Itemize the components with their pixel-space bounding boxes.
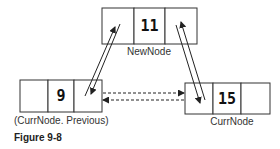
node-new-label: NewNode	[127, 46, 171, 57]
node-new-value: 11	[140, 17, 158, 35]
node-prev-value: 9	[56, 87, 65, 105]
node-prev-label: (CurrNode. Previous)	[14, 115, 108, 126]
node-prev-prev-cell	[20, 80, 48, 112]
node-curr-next-cell	[241, 83, 270, 114]
linked-list-diagram: 11 NewNode 9 (CurrNode. Previous) 15 Cur…	[0, 0, 280, 149]
node-prev-next-cell	[74, 80, 102, 112]
node-curr-label: CurrNode	[210, 116, 254, 127]
node-new-prev-cell	[102, 8, 134, 44]
node-new-next-cell	[165, 8, 197, 44]
figure-caption: Figure 9-8	[14, 132, 62, 143]
node-curr: 15 CurrNode	[185, 83, 270, 127]
node-curr-value: 15	[218, 90, 236, 108]
